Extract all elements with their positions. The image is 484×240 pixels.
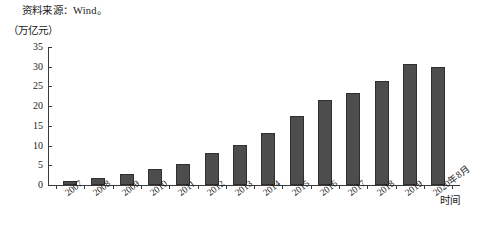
y-axis-tick-label: 25 [33,79,43,92]
x-axis-tick [56,186,57,189]
y-axis-tick-label: 5 [38,158,43,171]
y-axis-tick-label: 30 [33,60,43,73]
bar [290,116,304,185]
y-axis-unit-label: （万亿元） [8,22,58,37]
bar [375,81,389,185]
bar-chart: 05101520253035 2007200820092010201120122… [0,40,484,240]
y-axis-tick [48,185,52,186]
bar [346,93,360,185]
y-axis-tick-label: 20 [33,99,43,112]
y-axis-tick-label: 15 [33,119,43,132]
bar [261,133,275,185]
y-axis-tick-label: 35 [33,40,43,53]
source-note: 资料来源：Wind。 [22,2,107,17]
y-axis-tick-label: 0 [38,178,43,191]
x-axis-title: 时间 [440,192,460,207]
bar [431,67,445,185]
bar [318,100,332,185]
y-axis-tick-label: 10 [33,139,43,152]
chart-page: 资料来源：Wind。 （万亿元） 05101520253035 20072008… [0,0,484,240]
bar [403,64,417,185]
bars-layer [48,47,460,185]
